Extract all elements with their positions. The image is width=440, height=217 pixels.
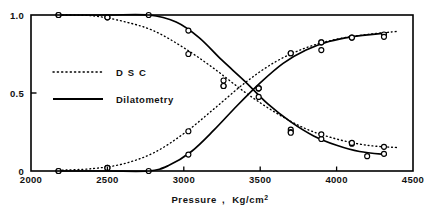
x-axis-title-unit-exponent: 2 <box>264 194 268 201</box>
x-axis-title-main: Pressure <box>171 194 216 205</box>
data-point-marker <box>256 86 261 91</box>
data-point-marker <box>288 51 293 56</box>
data-point-marker <box>319 40 324 45</box>
data-point-marker <box>319 132 324 137</box>
y-tick-label-0.5: 0.5 <box>10 88 25 99</box>
x-axis-title-comma: , <box>222 194 225 205</box>
data-point-marker <box>221 83 226 88</box>
x-axis-title-unit: Kg/cm <box>232 194 264 205</box>
data-point-marker <box>381 34 386 39</box>
data-point-marker <box>186 129 191 134</box>
x-tick-label-4500: 4500 <box>402 174 424 185</box>
data-point-marker <box>365 154 370 159</box>
data-point-marker <box>256 94 261 99</box>
data-point-marker <box>349 140 354 145</box>
data-point-marker <box>319 48 324 53</box>
x-tick-label-2500: 2500 <box>96 174 118 185</box>
data-point-marker <box>186 28 191 33</box>
y-tick-label-0: 0 <box>18 166 24 177</box>
y-tick-label-1.0: 1.0 <box>10 10 24 21</box>
legend-label-dilatometry: Dilatometry <box>116 94 174 105</box>
data-point-marker <box>349 35 354 40</box>
chart-svg: 200025003000350040004500 00.51.0 D S C D… <box>0 0 440 217</box>
data-point-marker <box>186 52 191 57</box>
legend-label-dsc: D S C <box>116 67 147 78</box>
x-tick-label-3500: 3500 <box>249 174 271 185</box>
data-point-marker <box>381 144 386 149</box>
data-point-marker <box>288 130 293 135</box>
data-point-marker <box>186 152 191 157</box>
x-tick-label-3000: 3000 <box>173 174 195 185</box>
chart-figure: 200025003000350040004500 00.51.0 D S C D… <box>0 0 440 217</box>
data-point-marker <box>221 78 226 83</box>
data-point-marker <box>381 151 386 156</box>
x-tick-label-4000: 4000 <box>325 174 347 185</box>
plot-background <box>0 0 440 217</box>
